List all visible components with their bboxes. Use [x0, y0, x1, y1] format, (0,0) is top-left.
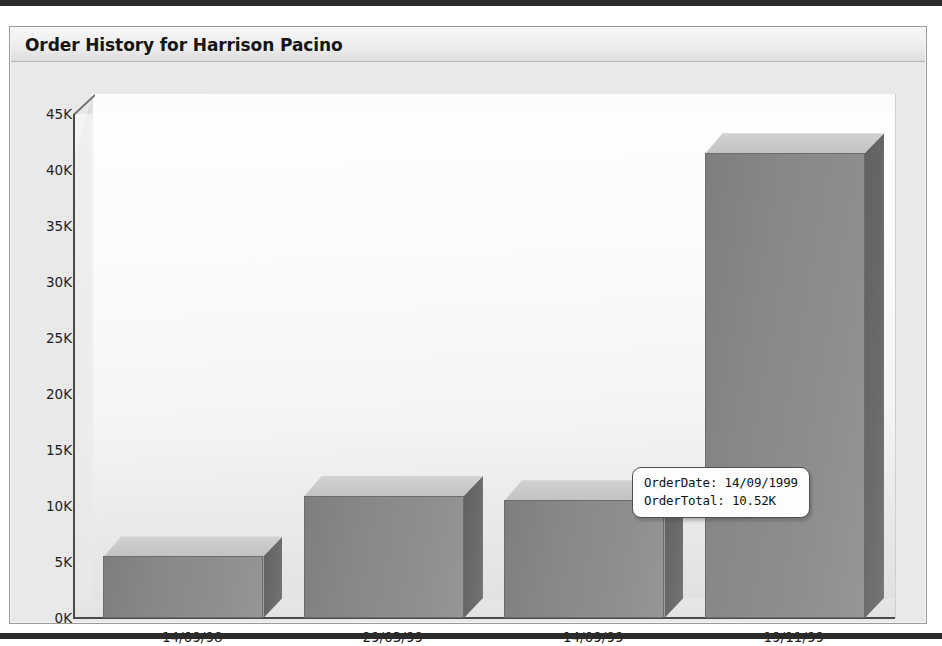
chart-title-bar: Order History for Harrison Pacino [11, 28, 925, 62]
bar-front-face [103, 556, 263, 618]
bar-top-face [304, 476, 482, 497]
page-title: Order History for Harrison Pacino [25, 35, 343, 55]
bar-front-face [304, 496, 464, 618]
bar-top-face [103, 536, 281, 557]
tooltip-order-total: OrderTotal: 10.52K [644, 492, 798, 510]
bar-side-face [464, 476, 483, 618]
bar-top-face [705, 133, 883, 154]
bar-front-face [705, 153, 865, 618]
page-root: Order History for Harrison Pacino 0K5K10… [0, 0, 942, 646]
plot-area: 0K5K10K15K20K25K30K35K40K45K 14/09/9829/… [10, 63, 926, 623]
bar-side-face [865, 133, 884, 618]
tooltip-order-date: OrderDate: 14/09/1999 [644, 474, 798, 492]
page-bottom-rule [0, 633, 942, 639]
page-top-rule [0, 0, 942, 6]
bars-layer [10, 63, 926, 623]
data-point-tooltip: OrderDate: 14/09/1999 OrderTotal: 10.52K [632, 467, 810, 518]
chart-panel: Order History for Harrison Pacino 0K5K10… [9, 26, 927, 624]
